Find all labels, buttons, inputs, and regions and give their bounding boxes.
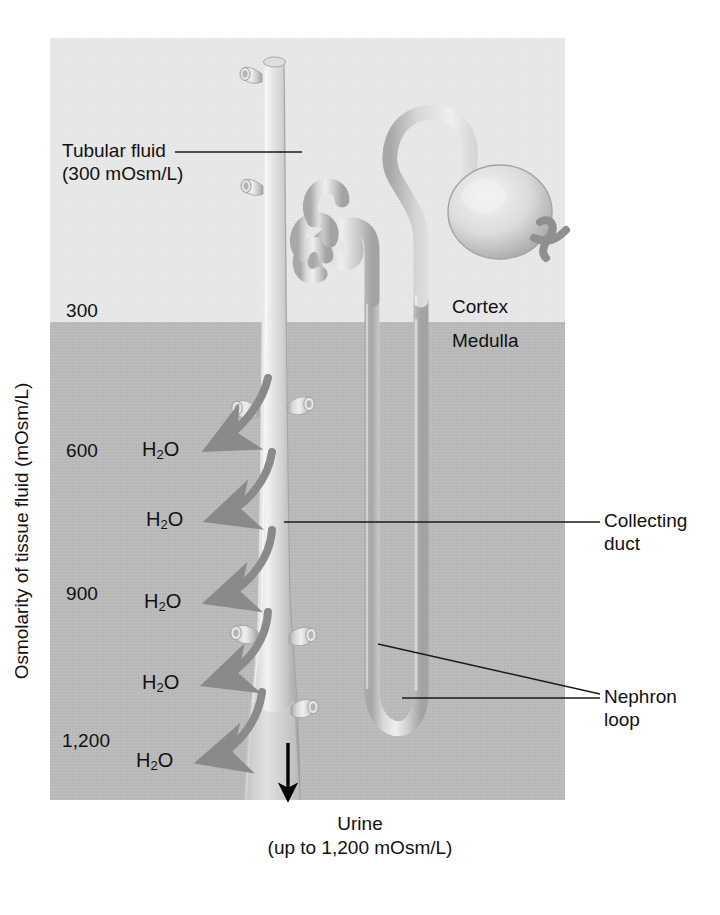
diagram-canvas: Osmolarity of tissue fluid (mOsm/L) 300 … (0, 0, 720, 915)
callout-nephron-loop: Nephron loop (604, 686, 677, 732)
urine-caption-line1: Urine (0, 812, 720, 836)
medulla-label: Medulla (452, 330, 519, 352)
urine-caption-line2: (up to 1,200 mOsm/L) (0, 836, 720, 860)
callout-tubular-fluid-line1: Tubular fluid (62, 140, 183, 163)
medulla-region (50, 322, 565, 800)
scale-value-1200: 1,200 (62, 730, 110, 752)
y-axis-title: Osmolarity of tissue fluid (mOsm/L) (11, 321, 33, 741)
callout-collecting-duct-line2: duct (604, 533, 687, 556)
water-label-4: H2O (142, 671, 179, 695)
scale-value-300: 300 (66, 300, 98, 322)
callout-collecting-duct-line1: Collecting (604, 510, 687, 533)
y-axis-title-container: Osmolarity of tissue fluid (mOsm/L) (0, 330, 46, 750)
scale-value-600: 600 (66, 440, 98, 462)
cortex-label: Cortex (452, 296, 508, 318)
water-label-2: H2O (146, 508, 183, 532)
callout-tubular-fluid-line2: (300 mOsm/L) (62, 163, 183, 186)
medulla-texture (50, 322, 565, 800)
callout-nephron-loop-line2: loop (604, 709, 677, 732)
callout-nephron-loop-line1: Nephron (604, 686, 677, 709)
water-label-1: H2O (142, 438, 179, 462)
water-label-5: H2O (136, 749, 173, 773)
callout-collecting-duct: Collecting duct (604, 510, 687, 556)
callout-tubular-fluid: Tubular fluid (300 mOsm/L) (62, 140, 183, 186)
water-label-3: H2O (144, 590, 181, 614)
scale-value-900: 900 (66, 583, 98, 605)
urine-caption: Urine (up to 1,200 mOsm/L) (0, 812, 720, 860)
